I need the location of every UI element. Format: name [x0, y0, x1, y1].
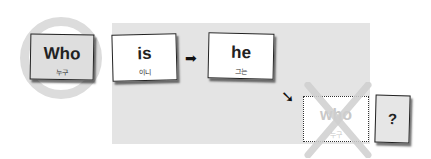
arrow-down-right-icon: ➘: [281, 90, 294, 104]
card-who: Who 누구: [30, 33, 95, 80]
card-meaning: 누구: [31, 68, 93, 77]
card-word: Who: [31, 43, 93, 64]
card-is: is 이니: [111, 33, 177, 82]
card-he: he 그는: [208, 32, 275, 79]
card-question: ?: [374, 95, 410, 144]
card-meaning: 이니: [113, 68, 176, 78]
cross-out-icon: [300, 82, 374, 158]
arrow-right-icon: ➡: [185, 51, 197, 65]
card-word: is: [113, 43, 177, 65]
card-word: ?: [376, 109, 410, 130]
card-word: he: [209, 42, 273, 63]
card-meaning: 그는: [209, 67, 273, 76]
